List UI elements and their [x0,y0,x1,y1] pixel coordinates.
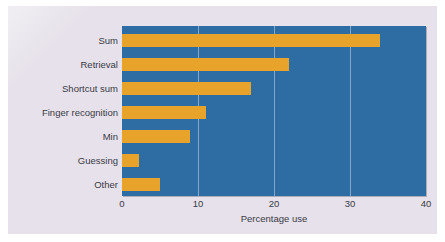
chart-panel: Sum Retrieval Shortcut sum Finger recogn… [8,6,437,234]
y-label-guessing: Guessing [12,154,118,167]
x-tick-40: 40 [421,198,432,209]
y-label-shortcut-sum: Shortcut sum [12,82,118,95]
y-label-sum: Sum [12,34,118,47]
y-label-min: Min [12,130,118,143]
bar-guessing[interactable] [122,154,139,167]
bar-row [122,130,190,143]
bar-retrieval[interactable] [122,58,289,71]
bar-row [122,154,139,167]
bar-min[interactable] [122,130,190,143]
bar-other[interactable] [122,178,160,191]
bar-row [122,178,160,191]
y-label-retrieval: Retrieval [12,58,118,71]
y-label-finger-recognition: Finger recognition [12,106,118,119]
bar-shortcut-sum[interactable] [122,82,251,95]
x-tick-20: 20 [269,198,280,209]
chart-figure: Sum Retrieval Shortcut sum Finger recogn… [0,0,445,242]
y-axis-category-labels: Sum Retrieval Shortcut sum Finger recogn… [8,26,118,196]
x-axis-tick-labels: 0 10 20 30 40 [122,198,426,212]
gridline-30 [350,26,351,196]
gridline-20 [274,26,275,196]
x-tick-30: 30 [345,198,356,209]
y-label-other: Other [12,178,118,191]
bar-finger-recognition[interactable] [122,106,206,119]
bar-row [122,82,251,95]
bar-row [122,58,289,71]
plot-area [122,26,426,196]
bar-sum[interactable] [122,34,380,47]
bar-row [122,34,380,47]
x-axis-title: Percentage use [122,213,426,224]
x-tick-10: 10 [193,198,204,209]
x-tick-0: 0 [119,198,124,209]
bar-row [122,106,206,119]
